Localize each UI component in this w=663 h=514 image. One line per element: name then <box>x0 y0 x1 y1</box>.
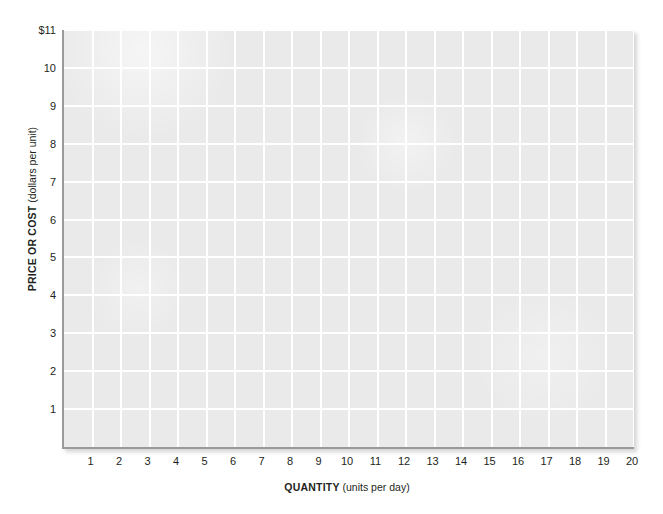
x-tick-label: 9 <box>304 455 334 467</box>
x-tick-label: 11 <box>361 455 391 467</box>
x-tick-label: 10 <box>332 455 362 467</box>
chart-figure: 12345678910$11 1234567891011121314151617… <box>0 0 663 514</box>
y-axis-title-main: PRICE OR COST <box>26 206 38 291</box>
x-tick-label: 19 <box>589 455 619 467</box>
x-tick-label: 18 <box>560 455 590 467</box>
x-axis-title-unit: (units per day) <box>343 481 410 493</box>
x-tick-label: 20 <box>617 455 647 467</box>
x-tick-label: 1 <box>76 455 106 467</box>
x-axis-tick-labels: 1234567891011121314151617181920 <box>0 0 663 514</box>
x-axis-title: QUANTITY (units per day) <box>62 481 632 493</box>
x-tick-label: 3 <box>133 455 163 467</box>
x-tick-label: 8 <box>275 455 305 467</box>
x-tick-label: 4 <box>161 455 191 467</box>
x-tick-label: 14 <box>446 455 476 467</box>
x-tick-label: 2 <box>104 455 134 467</box>
x-tick-label: 5 <box>190 455 220 467</box>
x-tick-label: 15 <box>475 455 505 467</box>
x-tick-label: 6 <box>218 455 248 467</box>
x-tick-label: 12 <box>389 455 419 467</box>
x-tick-label: 7 <box>247 455 277 467</box>
x-tick-label: 13 <box>418 455 448 467</box>
y-axis-title-unit: (dollars per unit) <box>26 127 38 203</box>
x-tick-label: 16 <box>503 455 533 467</box>
x-tick-label: 17 <box>532 455 562 467</box>
x-axis-title-main: QUANTITY <box>284 481 339 493</box>
y-axis-title: PRICE OR COST (dollars per unit) <box>26 9 38 409</box>
